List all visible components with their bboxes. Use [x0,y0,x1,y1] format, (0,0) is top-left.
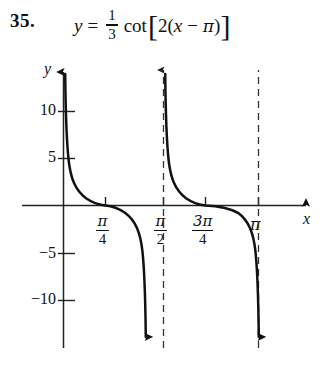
graph-svg [0,0,330,369]
figure-container: 35. y = 1 3 cot [ 2 ( x − π ) ] 10 5 −5 … [0,0,330,369]
